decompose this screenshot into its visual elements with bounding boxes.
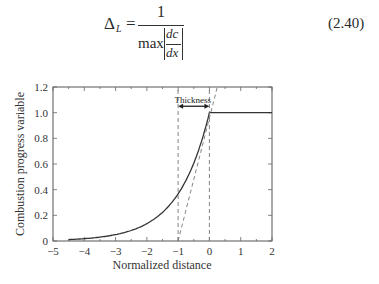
axis-tick-labels: −5−4−3−2−101200.20.40.60.81.01.2 bbox=[34, 81, 275, 257]
equation-abs-bar-left bbox=[164, 28, 165, 60]
y-tick-label: 0.8 bbox=[34, 132, 48, 144]
chart: −5−4−3−2−101200.20.40.60.81.01.2 Thickne… bbox=[0, 70, 379, 284]
equation-lhs-delta: Δ bbox=[104, 14, 115, 34]
y-tick-label: 1.2 bbox=[34, 81, 48, 93]
thickness-annotation: Thickness bbox=[175, 95, 212, 109]
equation-equals: = bbox=[126, 14, 136, 34]
plot-frame bbox=[53, 87, 272, 241]
equation-numerator: 1 bbox=[157, 3, 165, 21]
y-axis-label: Combustion progress variable bbox=[13, 92, 27, 236]
equation-2-40: Δ L = 1 max dc dx (2.40) bbox=[0, 0, 379, 70]
equation-deriv-num: dc bbox=[166, 26, 178, 42]
x-tick-label: −5 bbox=[47, 245, 59, 257]
x-axis-label: Normalized distance bbox=[113, 258, 212, 272]
y-tick-label: 0.4 bbox=[34, 184, 48, 196]
y-tick-label: 1.0 bbox=[34, 107, 48, 119]
y-tick-label: 0.6 bbox=[34, 158, 48, 170]
equation-lhs-subscript: L bbox=[116, 23, 122, 34]
y-tick-label: 0 bbox=[43, 235, 49, 247]
x-tick-label: −2 bbox=[141, 245, 153, 257]
max-gradient-tangent-line bbox=[178, 87, 217, 241]
equation-deriv-den: dx bbox=[166, 45, 178, 61]
x-tick-label: 1 bbox=[238, 245, 244, 257]
equation-max: max bbox=[138, 35, 164, 52]
x-tick-label: −1 bbox=[172, 245, 184, 257]
plot-border bbox=[53, 87, 272, 241]
x-tick-label: −4 bbox=[78, 245, 90, 257]
y-tick-label: 0.2 bbox=[34, 209, 48, 221]
series-group bbox=[69, 87, 272, 241]
equation-number: (2.40) bbox=[328, 15, 364, 32]
equation-abs-bar-right bbox=[182, 28, 183, 60]
x-tick-label: 0 bbox=[207, 245, 213, 257]
x-tick-label: 2 bbox=[269, 245, 275, 257]
progress-variable-profile-line bbox=[69, 113, 272, 240]
axis-ticks bbox=[53, 87, 272, 241]
x-tick-label: −3 bbox=[110, 245, 122, 257]
thickness-label: Thickness bbox=[175, 95, 212, 105]
